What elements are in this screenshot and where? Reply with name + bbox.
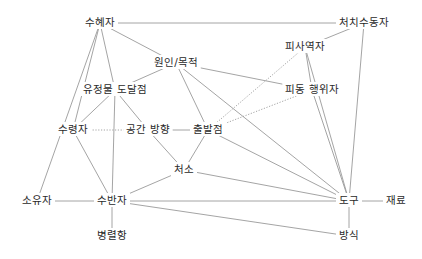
node-label: 재료 xyxy=(386,194,406,206)
node-cause_purpose: 원인/목적 xyxy=(151,55,201,69)
node-label: 소유자 xyxy=(22,194,52,206)
node-label: 수반자 xyxy=(97,194,127,206)
node-label: 처치수동자 xyxy=(339,16,389,28)
node-beneficiary: 수혜자 xyxy=(82,15,118,29)
edge-comitative-manner xyxy=(112,201,349,236)
node-disposal_patient: 처치수동자 xyxy=(336,15,392,29)
nodes-layer: 수혜자처치수동자원인/목적피사역자유정물 도달점피동 행위자수령자공간 방향출발… xyxy=(19,15,409,242)
node-label: 수령자 xyxy=(58,123,88,135)
node-animate_goal: 유정물 도달점 xyxy=(80,82,149,96)
diagram-canvas: 수혜자처치수동자원인/목적피사역자유정물 도달점피동 행위자수령자공간 방향출발… xyxy=(0,0,422,259)
node-passive_agent: 피동 행위자 xyxy=(282,82,341,96)
node-comitative: 수반자 xyxy=(94,193,130,207)
node-label: 원인/목적 xyxy=(154,56,198,68)
node-label: 방식 xyxy=(339,229,359,241)
node-location: 처소 xyxy=(171,162,197,176)
node-label: 처소 xyxy=(174,163,194,175)
node-possessor: 소유자 xyxy=(19,193,55,207)
node-recipient: 수령자 xyxy=(55,122,91,136)
node-coordinate: 병렬항 xyxy=(94,228,130,242)
edge-causee-instrument xyxy=(305,47,349,201)
edge-source-instrument xyxy=(208,130,349,201)
node-label: 공간 방향 xyxy=(126,123,169,135)
edge-recipient-comitative xyxy=(73,130,112,201)
node-label: 피동 행위자 xyxy=(285,83,338,95)
node-instrument: 도구 xyxy=(336,193,362,207)
edge-beneficiary-possessor xyxy=(37,23,100,201)
edge-cause_purpose-source xyxy=(176,63,208,130)
node-label: 피사역자 xyxy=(285,40,325,52)
node-label: 병렬항 xyxy=(97,229,127,241)
node-spatial_direction: 공간 방향 xyxy=(123,122,172,136)
node-label: 도구 xyxy=(339,194,359,206)
edge-disposal_patient-instrument xyxy=(349,23,364,201)
edge-beneficiary-recipient xyxy=(73,23,100,130)
node-label: 유정물 도달점 xyxy=(83,83,146,95)
edge-location-instrument xyxy=(184,170,349,201)
node-manner: 방식 xyxy=(336,228,362,242)
edge-beneficiary-animate_goal xyxy=(100,23,115,90)
node-source: 출발점 xyxy=(190,122,226,136)
node-material: 재료 xyxy=(383,193,409,207)
node-causee: 피사역자 xyxy=(282,39,328,53)
node-label: 출발점 xyxy=(193,123,223,135)
node-label: 수혜자 xyxy=(85,16,115,28)
edge-passive_agent-instrument xyxy=(312,90,349,201)
edge-animate_goal-comitative xyxy=(112,90,115,201)
semantic-role-diagram: 수혜자처치수동자원인/목적피사역자유정물 도달점피동 행위자수령자공간 방향출발… xyxy=(0,0,422,259)
